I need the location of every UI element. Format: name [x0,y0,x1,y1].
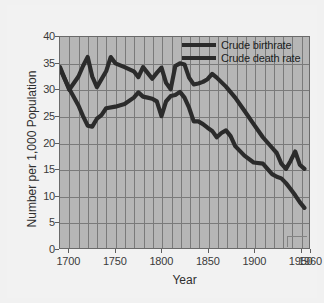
y-axis-label: Number per 1,000 Population [25,49,39,249]
legend-item-death-rate: Crude death rate [182,51,308,64]
legend-label-birthrate: Crude birthrate [221,39,291,51]
corner-marker [287,236,307,247]
chart-canvas: 0510152025303540 Number per 1,000 Popula… [7,5,317,298]
x-tick-mark [208,249,209,253]
y-tick-label: 40 [9,30,55,42]
x-axis-label: Year [59,273,310,287]
x-tick-mark [310,249,311,253]
x-tick-mark [254,249,255,253]
x-tick-label: 1700 [56,255,80,267]
chart-legend: Crude birthrate Crude death rate [182,38,308,64]
x-tick-label: 1800 [149,255,173,267]
legend-swatch-birthrate [182,43,216,47]
x-tick-label: 1900 [242,255,266,267]
series-line-death-rate [60,69,304,208]
x-tick-label: 1750 [103,255,127,267]
chart-figure: 0510152025303540 Number per 1,000 Popula… [0,0,324,303]
series-layer [60,37,309,248]
x-axis: 1700175018001850190019501960 [59,249,310,275]
x-tick-mark [301,249,302,253]
legend-item-birthrate: Crude birthrate [182,38,308,51]
plot-area [59,36,310,249]
x-tick-mark [161,249,162,253]
series-line-birthrate [60,57,304,169]
x-tick-mark [68,249,69,253]
legend-swatch-death-rate [182,56,216,60]
x-tick-mark [115,249,116,253]
x-tick-label: 1960 [298,255,322,267]
legend-label-death-rate: Crude death rate [221,52,300,64]
x-tick-label: 1850 [196,255,220,267]
